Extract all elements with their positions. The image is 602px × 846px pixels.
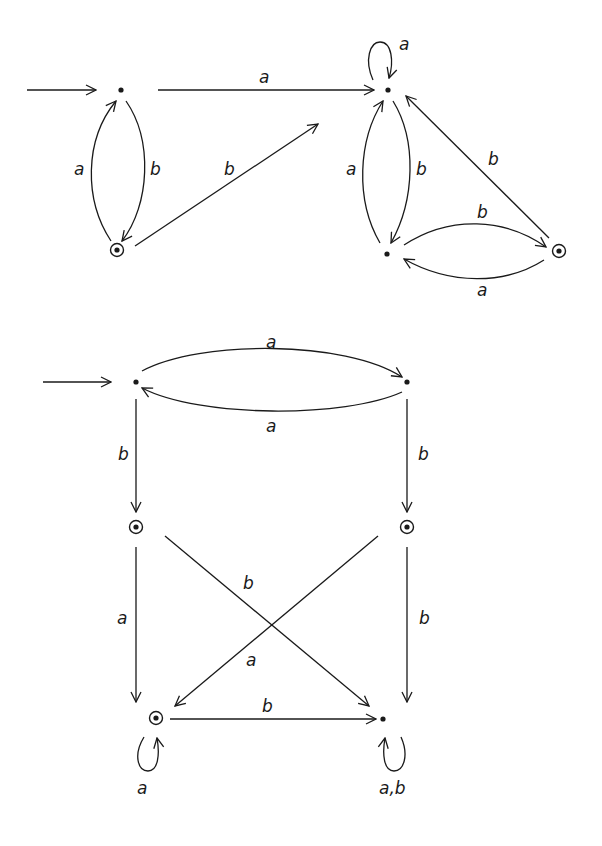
edge-q3-q4 xyxy=(404,224,546,247)
automata-diagram: a a b b a a b b b a xyxy=(0,0,602,846)
edge-p3-p4 xyxy=(175,536,378,706)
label-q4-q3: a xyxy=(477,280,487,300)
edge-p1-p0 xyxy=(142,388,402,411)
label-q3-q4: b xyxy=(477,202,488,222)
edge-q0-q1 xyxy=(122,101,145,241)
state-p1 xyxy=(404,379,409,384)
state-p3-accepting xyxy=(401,521,414,534)
label-q4-q2: b xyxy=(488,149,499,169)
edge-q1-q2 xyxy=(135,124,318,246)
label-q2-loop: a xyxy=(399,34,409,54)
label-q0-q1: b xyxy=(150,159,161,179)
state-p4-accepting xyxy=(150,712,163,725)
state-q1-accepting xyxy=(111,244,124,257)
label-q1-q2: b xyxy=(224,159,235,179)
label-p4-loop: a xyxy=(137,778,147,798)
edge-q1-q0 xyxy=(91,101,116,241)
label-p0-p1: a xyxy=(266,332,276,352)
label-q1-q0: a xyxy=(74,159,84,179)
edge-q2-loop xyxy=(369,42,392,80)
label-p3-p5: b xyxy=(419,608,430,628)
state-p0 xyxy=(133,379,138,384)
label-q0-q2: a xyxy=(259,67,269,87)
state-q3 xyxy=(384,251,389,256)
label-q3-q2: a xyxy=(346,159,356,179)
edge-p4-loop xyxy=(138,737,159,771)
label-p1-p3: b xyxy=(418,444,429,464)
edge-p5-loop xyxy=(384,737,405,771)
automaton-bottom: a a b b a b b a b a a,b xyxy=(43,332,430,798)
state-q4-accepting xyxy=(553,245,566,258)
label-p2-p5: b xyxy=(243,573,254,593)
edge-p2-p5 xyxy=(165,536,369,706)
state-p5 xyxy=(380,716,385,721)
automaton-top: a a b b a a b b b a xyxy=(27,34,566,300)
state-q0 xyxy=(118,87,123,92)
label-p3-p4: a xyxy=(246,650,256,670)
edge-q2-q3 xyxy=(391,101,410,243)
label-p1-p0: a xyxy=(266,416,276,436)
label-p4-p5: b xyxy=(262,696,273,716)
state-p2-accepting xyxy=(130,521,143,534)
edge-q4-q3 xyxy=(404,259,544,279)
label-p0-p2: b xyxy=(118,444,129,464)
label-p5-loop: a,b xyxy=(379,778,406,798)
label-p2-p4: a xyxy=(117,608,127,628)
edge-p0-p1 xyxy=(142,348,402,377)
edge-q3-q2 xyxy=(363,101,383,243)
state-q2 xyxy=(385,87,390,92)
label-q2-q3: b xyxy=(416,159,427,179)
